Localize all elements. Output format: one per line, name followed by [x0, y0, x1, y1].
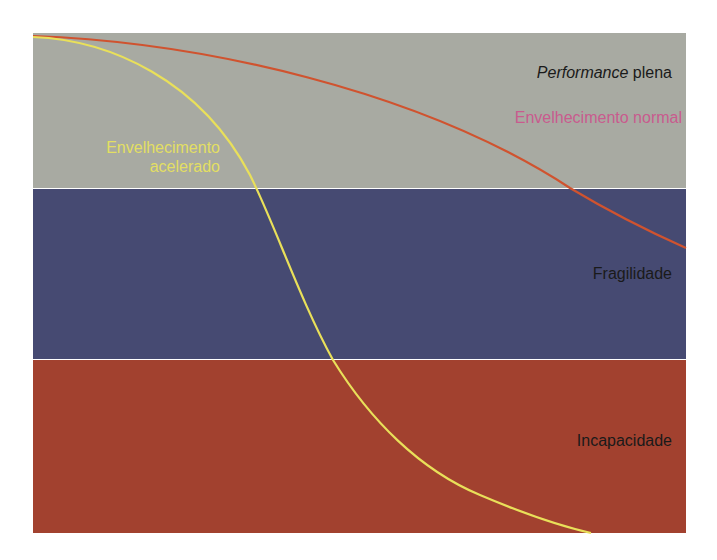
curves-plot	[0, 0, 717, 560]
label-acelerado-line2: acelerado	[106, 157, 220, 176]
label-envelhecimento-acelerado: Envelhecimento acelerado	[106, 138, 220, 176]
curve-envelhecimento-acelerado	[33, 37, 591, 533]
label-acelerado-line1: Envelhecimento	[106, 138, 220, 157]
label-envelhecimento-normal: Envelhecimento normal	[515, 108, 682, 127]
